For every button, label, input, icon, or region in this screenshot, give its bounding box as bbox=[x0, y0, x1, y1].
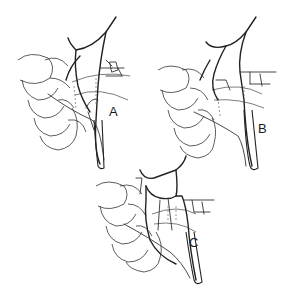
bowel-loops-b bbox=[158, 66, 216, 158]
vascular-arcade-figure: A B bbox=[0, 0, 298, 300]
mesentery-edge-b2 bbox=[214, 100, 264, 108]
mesentery-edge-b bbox=[212, 87, 262, 94]
panel-a: A bbox=[18, 17, 130, 169]
panel-label-c: C bbox=[189, 235, 198, 250]
mesentery-edge-c bbox=[152, 209, 196, 214]
vessels-a bbox=[48, 17, 124, 164]
panel-label-a: A bbox=[109, 104, 118, 119]
panel-label-b: B bbox=[258, 121, 267, 136]
panel-b: B bbox=[158, 17, 276, 170]
vessels-c bbox=[124, 156, 214, 280]
mesentery-edge-c2 bbox=[154, 223, 196, 232]
vessels-b bbox=[194, 17, 276, 166]
panel-c: C bbox=[96, 156, 214, 284]
